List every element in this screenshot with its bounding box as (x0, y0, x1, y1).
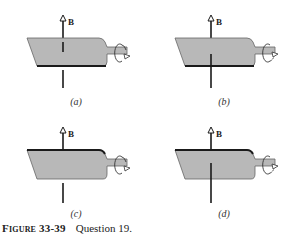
panel-label-d: (d) (209, 208, 239, 219)
panel-label-a: (a) (61, 96, 91, 107)
field-label-b: B (68, 129, 74, 139)
field-label-b: B (216, 17, 222, 27)
field-label-b: B (216, 129, 222, 139)
panel-d: B (d) (148, 113, 294, 226)
caption-text: Question 19. (76, 222, 132, 234)
field-label-b: B (68, 17, 74, 27)
panel-b: B (b) (148, 0, 294, 113)
panel-a: B (a) (0, 0, 147, 113)
panel-label-b: (b) (209, 96, 239, 107)
figure-caption: Figure 33-39Question 19. (2, 222, 132, 234)
panel-label-c: (c) (61, 208, 91, 219)
figure-number: Figure 33-39 (2, 222, 66, 234)
panel-c: B (c) (0, 113, 147, 226)
